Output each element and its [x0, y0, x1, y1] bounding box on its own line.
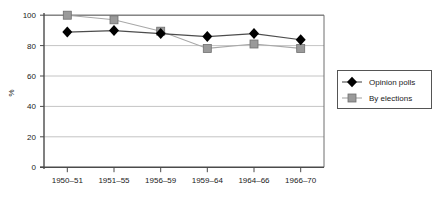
diamond-marker	[249, 28, 259, 39]
gridlines	[44, 15, 324, 137]
y-tick-labels: 100 80 60 40 20 0	[23, 11, 37, 172]
square-marker	[297, 44, 305, 52]
y-tick-label-0: 0	[32, 163, 37, 172]
diamond-marker	[296, 34, 306, 45]
y-tick-label-60: 60	[27, 72, 36, 81]
x-tick-marks	[67, 167, 300, 172]
legend-item-opinion-polls[interactable]: Opinion polls	[342, 77, 415, 87]
y-tick-label-20: 20	[27, 133, 36, 142]
square-marker	[348, 94, 356, 102]
x-axis-label-5: 1966–70	[285, 176, 317, 185]
x-axis-label-4: 1964–66	[238, 176, 270, 185]
y-tick-label-100: 100	[23, 11, 37, 20]
diamond-marker	[62, 27, 72, 38]
plot-border	[44, 15, 324, 167]
series-by-elections-line	[67, 15, 300, 48]
y-axis-title: %	[7, 89, 16, 96]
chart-canvas: 100 80 60 40 20 0 %	[0, 0, 436, 205]
series-by-elections	[63, 11, 304, 52]
chart-legend: Opinion polls By elections	[338, 71, 432, 109]
line-chart: 100 80 60 40 20 0 %	[0, 0, 436, 205]
series-opinion-polls	[62, 25, 305, 45]
square-marker	[63, 11, 71, 19]
x-axis-label-0: 1950–51	[52, 176, 84, 185]
axes	[40, 13, 324, 169]
y-tick-label-40: 40	[27, 102, 36, 111]
square-marker	[250, 40, 258, 48]
x-axis-label-1: 1951–55	[98, 176, 130, 185]
legend-label-opinion-polls: Opinion polls	[369, 78, 415, 87]
series-opinion-polls-line	[67, 31, 300, 40]
diamond-marker	[202, 31, 212, 42]
x-axis-label-2: 1956–59	[145, 176, 177, 185]
diamond-marker	[109, 25, 119, 36]
legend-item-by-elections[interactable]: By elections	[342, 94, 412, 103]
square-marker	[203, 44, 211, 52]
legend-label-by-elections: By elections	[369, 94, 412, 103]
x-axis-label-3: 1959–64	[192, 176, 224, 185]
x-axis-labels: 1950–51 1951–55 1956–59 1959–64 1964–66 …	[52, 176, 317, 185]
y-tick-label-80: 80	[27, 42, 36, 51]
square-marker	[110, 16, 118, 24]
